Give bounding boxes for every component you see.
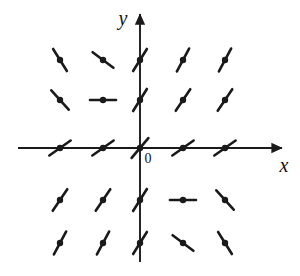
slope-point-marker bbox=[222, 145, 228, 151]
slope-point-marker bbox=[137, 97, 143, 103]
x-axis-label: x bbox=[279, 154, 289, 176]
slope-point-marker bbox=[57, 197, 63, 203]
slope-point-marker bbox=[180, 145, 186, 151]
slope-field-figure: x y 0 bbox=[0, 0, 300, 276]
slope-point-marker bbox=[100, 240, 106, 246]
slope-point-marker bbox=[137, 197, 143, 203]
origin-label: 0 bbox=[145, 151, 152, 166]
slope-point-marker bbox=[222, 197, 228, 203]
slope-point-marker bbox=[137, 145, 143, 151]
slope-point-marker bbox=[137, 57, 143, 63]
slope-point-marker bbox=[222, 240, 228, 246]
slope-point-marker bbox=[222, 57, 228, 63]
slope-segments-group bbox=[49, 49, 235, 255]
slope-point-marker bbox=[180, 197, 186, 203]
axes-group bbox=[18, 14, 282, 262]
slope-point-marker bbox=[180, 240, 186, 246]
slope-field-canvas: x y 0 bbox=[0, 0, 300, 276]
slope-point-marker bbox=[100, 197, 106, 203]
slope-point-marker bbox=[100, 145, 106, 151]
slope-point-marker bbox=[57, 97, 63, 103]
slope-point-marker bbox=[57, 145, 63, 151]
slope-point-marker bbox=[57, 57, 63, 63]
slope-point-marker bbox=[222, 97, 228, 103]
slope-point-marker bbox=[180, 57, 186, 63]
y-axis-label: y bbox=[117, 7, 128, 30]
slope-point-marker bbox=[100, 97, 106, 103]
slope-point-marker bbox=[100, 57, 106, 63]
slope-point-marker bbox=[57, 240, 63, 246]
slope-point-marker bbox=[180, 97, 186, 103]
slope-point-marker bbox=[137, 240, 143, 246]
